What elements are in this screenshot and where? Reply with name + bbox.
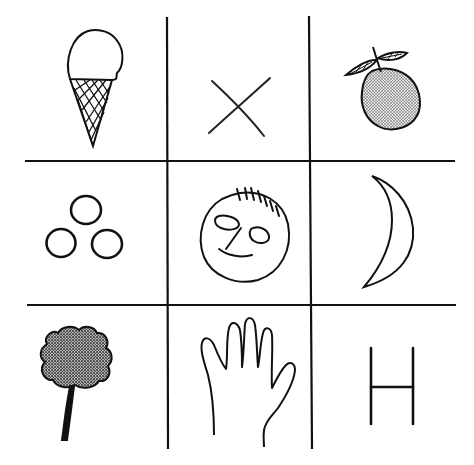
tree-icon [41, 327, 112, 440]
x-cross-icon [209, 78, 270, 136]
grid-line-vertical-2 [309, 16, 312, 449]
three-circles-icon [47, 196, 123, 258]
grid-line-vertical-1 [167, 17, 168, 449]
letter-h-icon [371, 348, 413, 424]
crescent-moon-icon [364, 176, 413, 287]
ice-cream-cone-icon [68, 30, 122, 146]
hand-icon [201, 318, 295, 447]
apple-icon [346, 47, 420, 129]
picture-grid [0, 0, 474, 465]
smiley-face-icon [201, 188, 289, 282]
